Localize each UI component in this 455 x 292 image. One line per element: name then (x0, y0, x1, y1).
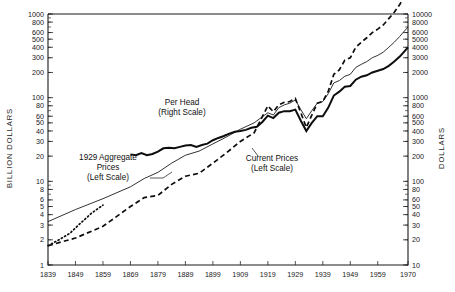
right-tick-label: 80 (412, 185, 420, 194)
right-tick-label: 400 (412, 127, 424, 136)
left-axis-ticks: 1234568102030405060801002003004005006008… (28, 10, 53, 270)
left-tick-label: 1000 (28, 10, 44, 19)
y-axis-title-right: DOLLARS (437, 127, 446, 169)
right-tick-label: 4000 (412, 43, 428, 52)
left-tick-label: 3 (40, 221, 44, 230)
right-tick-label: 600 (412, 112, 424, 121)
annotation-aggregate-1929: Prices (97, 163, 120, 172)
annotation-aggregate-1929: (Left Scale) (87, 173, 129, 182)
left-tick-label: 800 (32, 18, 44, 27)
x-tick-label: 1929 (287, 270, 303, 279)
x-tick-label: 1849 (67, 270, 83, 279)
annotation-per-head: (Right Scale) (158, 108, 206, 117)
chart-container: 1234568102030405060801002003004005006008… (0, 0, 455, 292)
economic-growth-log-chart: 1234568102030405060801002003004005006008… (0, 0, 455, 292)
x-tick-label: 1839 (40, 270, 56, 279)
left-tick-label: 10 (36, 177, 44, 186)
x-tick-label: 1879 (150, 270, 166, 279)
left-tick-label: 2 (40, 235, 44, 244)
x-tick-label: 1899 (205, 270, 221, 279)
left-tick-label: 600 (32, 28, 44, 37)
left-tick-label: 30 (36, 137, 44, 146)
x-axis-ticks: 1839184918591869187918891899190919191929… (40, 261, 416, 279)
right-tick-label: 60 (412, 195, 420, 204)
left-tick-label: 4 (40, 210, 44, 219)
annotation-per-head: Per Head (165, 98, 200, 107)
right-tick-label: 30 (412, 221, 420, 230)
right-tick-label: 800 (412, 101, 424, 110)
annotation-current-prices: Current Prices (246, 154, 298, 163)
x-tick-label: 1859 (95, 270, 111, 279)
x-tick-label: 1919 (260, 270, 276, 279)
right-tick-label: 2000 (412, 68, 428, 77)
right-tick-label: 3000 (412, 53, 428, 62)
right-tick-label: 6000 (412, 28, 428, 37)
left-tick-label: 1 (40, 261, 44, 270)
leader-line-aggregate (150, 172, 172, 178)
left-tick-label: 40 (36, 127, 44, 136)
x-tick-label: 1949 (342, 270, 358, 279)
x-tick-label: 1869 (122, 270, 138, 279)
annotation-current-prices: (Left Scale) (251, 164, 293, 173)
x-tick-label: 1959 (370, 270, 386, 279)
annotation-aggregate-1929: 1929 Aggregate (79, 153, 137, 162)
right-tick-label: 40 (412, 210, 420, 219)
series-line (48, 205, 103, 246)
right-tick-label: 10000 (412, 10, 432, 19)
x-tick-label: 1889 (177, 270, 193, 279)
left-tick-label: 200 (32, 68, 44, 77)
right-tick-label: 1000 (412, 93, 428, 102)
left-tick-label: 60 (36, 112, 44, 121)
left-tick-label: 100 (32, 93, 44, 102)
right-tick-label: 300 (412, 137, 424, 146)
left-tick-label: 300 (32, 53, 44, 62)
right-tick-label: 10 (412, 261, 420, 270)
left-tick-label: 20 (36, 152, 44, 161)
right-tick-label: 20 (412, 235, 420, 244)
left-tick-label: 80 (36, 101, 44, 110)
series-line (48, 0, 408, 246)
x-tick-label: 1909 (232, 270, 248, 279)
data-series-group (48, 0, 408, 246)
right-tick-label: 200 (412, 152, 424, 161)
right-tick-label: 100 (412, 177, 424, 186)
series-line (48, 27, 408, 222)
right-tick-label: 8000 (412, 18, 428, 27)
left-tick-label: 6 (40, 195, 44, 204)
x-tick-label: 1970 (400, 270, 416, 279)
y-axis-title-left: BILLION DOLLARS (5, 108, 14, 188)
left-tick-label: 400 (32, 43, 44, 52)
x-tick-label: 1939 (315, 270, 331, 279)
left-tick-label: 8 (40, 185, 44, 194)
